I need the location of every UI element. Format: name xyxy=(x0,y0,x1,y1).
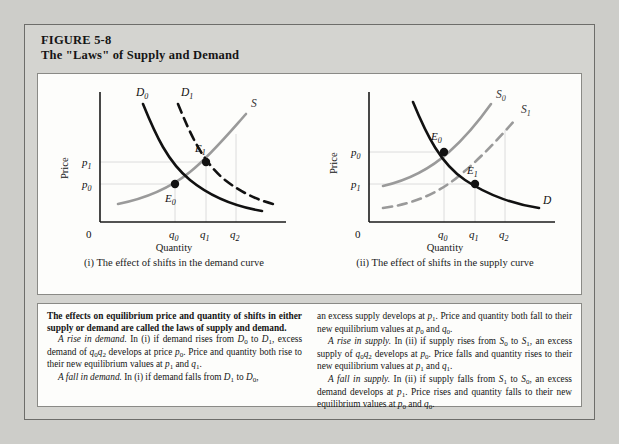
ytick-p1: p1 xyxy=(350,178,361,193)
figure-title-text: The "Laws" of Supply and Demand xyxy=(41,48,239,63)
curve-label-d0: D0 xyxy=(135,86,148,101)
charts-panel: D0 D1 S E1 E0 p1 p0 q0 q1 q2 0 Price xyxy=(37,73,582,295)
xaxis-label-left: Quantity xyxy=(38,242,310,253)
ytick-p0: p0 xyxy=(81,178,92,193)
paragraph-fall-in-demand-cont: an excess supply develops at p1. Price a… xyxy=(317,311,572,336)
explanatory-text-panel: The effects on equilibrium price and qua… xyxy=(37,303,582,407)
figure-title: FIGURE 5-8 The "Laws" of Supply and Dema… xyxy=(41,33,239,63)
text-column-right: an excess supply develops at p1. Price a… xyxy=(317,311,572,412)
xtick-q1: q1 xyxy=(200,228,210,243)
chart-supply-shift: S0 S1 D E0 E1 p0 p1 q0 q1 q2 0 Price Qua… xyxy=(309,74,581,294)
paragraph-rise-in-demand: A rise in demand. In (i) if demand rises… xyxy=(47,334,302,372)
curve-demand-d0 xyxy=(143,104,262,211)
xtick-q2: q2 xyxy=(230,228,240,243)
curve-label-s0: S0 xyxy=(496,88,506,103)
curve-supply xyxy=(118,114,246,204)
xtick-q1: q1 xyxy=(469,228,479,243)
ytick-p1: p1 xyxy=(81,156,92,171)
point-e0 xyxy=(440,148,448,156)
lead-fall-in-demand: A fall in demand. xyxy=(58,372,122,382)
paragraph-fall-in-demand: A fall in demand. In (i) if demand falls… xyxy=(47,372,302,385)
lead-rise-in-supply: A rise in supply. xyxy=(328,336,391,346)
text-columns: The effects on equilibrium price and qua… xyxy=(47,311,572,412)
caption-right: (ii) The effect of shifts in the supply … xyxy=(309,257,581,268)
curve-demand-d xyxy=(413,102,539,208)
point-label-e0: E0 xyxy=(164,192,176,207)
yaxis-label-right: Price xyxy=(328,152,339,174)
yaxis-label-left: Price xyxy=(59,157,70,179)
chart-supply-shift-svg: S0 S1 D E0 E1 p0 p1 q0 q1 q2 0 Price xyxy=(309,74,581,249)
xtick-q2: q2 xyxy=(499,228,509,243)
curve-label-d: D xyxy=(542,194,552,206)
curve-label-s: S xyxy=(251,97,257,109)
lead-rise-in-demand: A rise in demand. xyxy=(58,334,127,344)
figure-box: FIGURE 5-8 The "Laws" of Supply and Dema… xyxy=(24,24,595,420)
curve-demand-d1 xyxy=(178,104,278,205)
paragraph-fall-in-supply: A fall in supply. In (ii) if supply fall… xyxy=(317,374,572,412)
origin-label-right: 0 xyxy=(355,228,361,240)
page-root: FIGURE 5-8 The "Laws" of Supply and Dema… xyxy=(0,0,619,444)
ytick-p0: p0 xyxy=(350,146,361,161)
point-e1 xyxy=(202,158,210,166)
text-column-left: The effects on equilibrium price and qua… xyxy=(47,311,302,412)
caption-left: (i) The effect of shifts in the demand c… xyxy=(38,257,310,268)
paragraph-rise-in-supply: A rise in supply. In (ii) if supply rise… xyxy=(317,336,572,374)
figure-number: FIGURE 5-8 xyxy=(41,33,239,48)
xaxis-label-right: Quantity xyxy=(309,242,581,253)
origin-label-left: 0 xyxy=(86,228,92,240)
chart-demand-shift-svg: D0 D1 S E1 E0 p1 p0 q0 q1 q2 0 Price xyxy=(38,74,310,249)
xtick-q0: q0 xyxy=(438,228,448,243)
curve-label-s1: S1 xyxy=(521,103,531,118)
point-label-e1: E1 xyxy=(194,142,206,157)
xtick-q0: q0 xyxy=(169,228,179,243)
point-e0 xyxy=(171,180,179,188)
paragraph-laws: The effects on equilibrium price and qua… xyxy=(47,311,302,334)
chart-demand-shift: D0 D1 S E1 E0 p1 p0 q0 q1 q2 0 Price xyxy=(38,74,310,294)
point-label-e1: E1 xyxy=(466,164,478,179)
lead-fall-in-supply: A fall in supply. xyxy=(328,374,390,384)
curve-label-d1: D1 xyxy=(180,86,193,101)
point-e1 xyxy=(471,180,479,188)
